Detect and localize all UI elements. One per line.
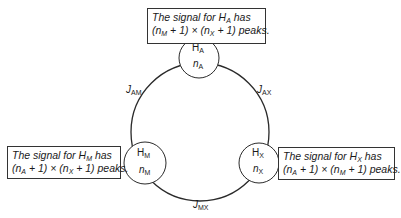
coupling-mx-sub: MX [198,204,209,211]
box-m-t3: + 1) peaks. [73,162,128,174]
box-a-t3: + 1) peaks. [214,24,269,36]
node-m-subscript: M [144,152,150,159]
signal-box-a: The signal for HA has (nM + 1) × (nX + 1… [147,8,266,44]
signal-box-x-line2: (nA + 1) × (nM + 1) peaks. [283,163,390,176]
box-x-t2: + 1) × (n [297,163,340,175]
signal-box-x: The signal for HX has (nA + 1) × (nM + 1… [278,147,395,180]
box-x-t3: + 1) peaks. [345,163,400,175]
box-a-prefix: The signal for H [152,11,226,23]
signal-box-m-line2: (nA + 1) × (nX + 1) peaks. [12,162,116,175]
box-m-t2: + 1) × (n [26,162,69,174]
node-m-count-sub: M [145,169,151,176]
coupling-ax-label: JAX [257,84,271,96]
signal-box-m-line1: The signal for HM has [12,149,116,162]
box-m-prefix: The signal for H [12,149,86,161]
signal-box-m: The signal for HM has (nA + 1) × (nX + 1… [7,146,121,179]
node-a-count: nA [193,58,203,70]
signal-box-a-line1: The signal for HA has [152,11,261,24]
node-m-count: nM [139,164,150,176]
signal-box-x-line1: The signal for HX has [283,150,390,163]
coupling-mx-label: JMX [193,199,209,211]
node-x-count: nX [253,163,263,175]
box-a-t2: + 1) × (n [167,24,210,36]
box-a-t1: (n [152,24,161,36]
node-m-label: HM [137,147,150,159]
node-a-count-sub: A [199,63,204,70]
box-x-t1: (n [283,163,292,175]
box-m-suffix: has [92,149,112,161]
node-x-count-sub: X [259,168,264,175]
box-m-t1: (n [12,162,21,174]
node-a-subscript: A [199,47,204,54]
coupling-am-label: JAM [126,84,142,96]
coupling-am-sub: AM [131,89,142,96]
box-x-suffix: has [362,150,382,162]
node-x-label: HX [252,147,264,159]
signal-box-a-line2: (nM + 1) × (nX + 1) peaks. [152,24,261,37]
coupling-ax-sub: AX [262,89,271,96]
box-x-prefix: The signal for H [283,150,357,162]
node-x-subscript: X [259,152,264,159]
box-a-suffix: has [231,11,251,23]
